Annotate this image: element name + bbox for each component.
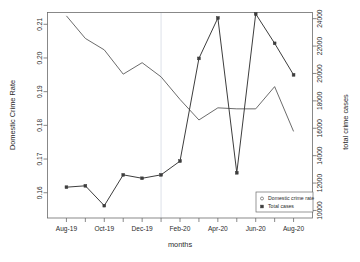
y2-tick-label: 16000	[316, 119, 323, 138]
chart-background	[0, 0, 360, 262]
y2-tick-label: 22000	[316, 37, 323, 56]
x-tick-label: Aug-19	[56, 225, 78, 233]
line-chart: 0.160.170.180.190.200.21 100001200014000…	[0, 0, 360, 262]
y2-tick-label: 10000	[316, 201, 323, 220]
data-point-marker	[160, 173, 163, 176]
x-tick-label: Feb-20	[170, 225, 191, 232]
y-tick-label: 0.16	[36, 186, 43, 199]
y2-tick-label: 20000	[316, 64, 323, 83]
y2-axis-title: total crime cases	[341, 94, 350, 150]
data-point-marker	[235, 171, 238, 174]
data-point-marker	[198, 57, 201, 60]
data-point-marker	[179, 160, 182, 163]
y-tick-label: 0.18	[36, 119, 43, 132]
y-tick-label: 0.19	[36, 85, 43, 98]
legend-label: Domestic crime rate	[268, 195, 314, 201]
y-tick-label: 0.21	[36, 18, 43, 31]
data-point-marker	[292, 73, 295, 76]
x-tick-label: Oct-19	[94, 225, 114, 232]
y2-tick-label: 24000	[316, 9, 323, 28]
data-point-marker	[141, 177, 144, 180]
y2-tick-label: 14000	[316, 146, 323, 165]
data-point-marker	[122, 173, 125, 176]
legend-marker-solid-square-icon	[261, 205, 264, 208]
chart-container: 0.160.170.180.190.200.21 100001200014000…	[0, 0, 360, 262]
x-tick-label: Jun-20	[246, 225, 266, 232]
y-tick-label: 0.17	[36, 152, 43, 165]
y-tick-label: 0.20	[36, 51, 43, 64]
x-tick-label: Aug-20	[283, 225, 305, 233]
x-tick-label: Dec-19	[132, 225, 154, 232]
data-point-marker	[103, 204, 106, 207]
data-point-marker	[254, 12, 257, 15]
data-point-marker	[273, 42, 276, 45]
legend-label: Total cases	[268, 203, 294, 209]
x-axis-title: months	[168, 240, 193, 249]
data-point-marker	[216, 17, 219, 20]
x-tick-label: Apr-20	[208, 225, 228, 233]
data-point-marker	[65, 186, 68, 189]
y2-tick-label: 12000	[316, 174, 323, 193]
y2-tick-label: 18000	[316, 91, 323, 110]
y-axis-title: Domestic Crime Rate	[8, 80, 17, 150]
chart-legend[interactable]: Domestic crime rateTotal cases	[256, 192, 314, 212]
data-point-marker	[84, 184, 87, 187]
